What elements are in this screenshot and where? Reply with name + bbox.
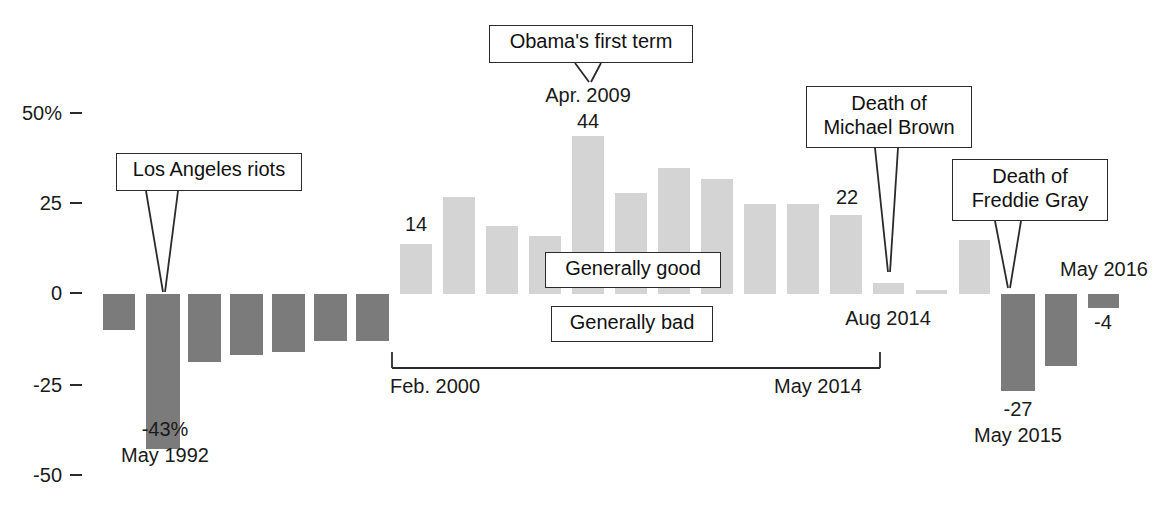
tag-generally-bad: Generally bad [551, 306, 713, 342]
bar-early-3 [188, 294, 221, 362]
date-label-may-2016: May 2016 [1047, 258, 1161, 281]
bar-early-4 [230, 294, 263, 355]
date-label-may-1992: May 1992 [108, 444, 222, 467]
bar-may-2015 [1001, 294, 1035, 391]
date-label-apr-2009: Apr. 2009 [526, 84, 650, 107]
bar-middle-3 [486, 226, 518, 294]
bar-middle-2 [443, 197, 475, 294]
callout-los-angeles-riots: Los Angeles riots [116, 153, 302, 191]
callout-gray-line1: Death of [961, 164, 1099, 188]
bar-late-5 [1045, 294, 1077, 366]
date-label-aug-2014: Aug 2014 [833, 307, 943, 330]
bar-aug-2014 [873, 283, 904, 294]
callout-brown-line2: Michael Brown [815, 115, 963, 139]
date-label-may-2015: May 2015 [961, 424, 1075, 447]
bar-late-2 [916, 290, 947, 294]
bar-may-2016 [1088, 294, 1119, 308]
value-label-may-2016: -4 [1078, 311, 1128, 333]
range-end-label: May 2014 [774, 375, 862, 397]
bar-early-7 [356, 294, 389, 341]
chart-canvas: 50% 25 0 -25 -50 [0, 0, 1161, 521]
bar-late-3 [959, 240, 990, 294]
range-start-label: Feb. 2000 [390, 375, 480, 397]
callout-obamas-first-term: Obama's first term [489, 25, 693, 63]
bar-early-6 [314, 294, 347, 341]
bar-early-5 [272, 294, 305, 352]
value-label-may-1992: -43% [120, 418, 210, 440]
bar-early-1 [103, 294, 135, 330]
value-label-feb-2000: 14 [391, 213, 441, 235]
callout-brown-line1: Death of [815, 91, 963, 115]
tag-generally-good: Generally good [545, 252, 721, 288]
value-label-apr-2009: 44 [563, 110, 613, 132]
callout-death-of-freddie-gray: Death of Freddie Gray [952, 159, 1108, 221]
value-label-may-2015: -27 [993, 398, 1043, 420]
value-label-may-2014: 22 [822, 186, 872, 208]
bar-feb-2000 [400, 244, 432, 294]
bar-middle-9 [744, 204, 776, 294]
callout-death-of-michael-brown: Death of Michael Brown [806, 86, 972, 148]
bar-may-2014 [830, 215, 862, 294]
bar-middle-10 [787, 204, 819, 294]
callout-gray-line2: Freddie Gray [961, 188, 1099, 212]
